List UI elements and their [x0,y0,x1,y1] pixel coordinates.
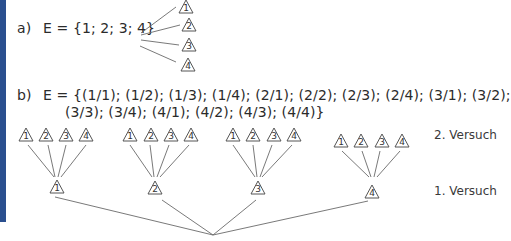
svg-text:1: 1 [127,131,133,141]
first-trial-outcomes: 1 2 3 4 [50,180,379,198]
svg-text:3: 3 [255,184,261,194]
svg-text:3: 3 [168,131,174,141]
svg-text:1: 1 [23,131,29,141]
svg-text:2: 2 [358,137,364,147]
second-trial-outcomes: 1 2 3 4 1 2 3 4 1 2 3 4 1 2 3 4 [19,128,409,147]
svg-text:4: 4 [291,131,297,141]
svg-text:2: 2 [43,131,49,141]
svg-text:2: 2 [152,184,158,194]
svg-text:4: 4 [83,131,89,141]
svg-text:3: 3 [63,131,69,141]
svg-text:1: 1 [230,131,236,141]
svg-text:2: 2 [148,131,154,141]
svg-text:3: 3 [271,131,277,141]
svg-text:4: 4 [399,137,405,147]
svg-text:2: 2 [250,131,256,141]
svg-text:1: 1 [183,3,189,13]
svg-text:3: 3 [186,41,192,51]
svg-text:3: 3 [379,137,385,147]
svg-text:1: 1 [54,183,60,193]
svg-text:4: 4 [185,61,191,71]
svg-text:1: 1 [338,137,344,147]
part-a-outcomes: 1 2 3 4 [179,0,196,71]
svg-text:2: 2 [186,21,192,31]
svg-text:4: 4 [188,131,194,141]
svg-text:4: 4 [369,188,375,198]
